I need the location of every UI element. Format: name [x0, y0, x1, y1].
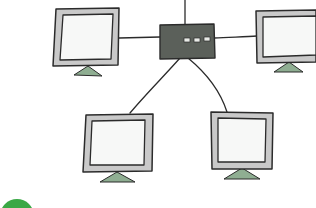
cable-hub-to-computer-top-right	[214, 36, 257, 38]
cable-hub-to-computer-bottom-left	[130, 58, 180, 113]
monitor-icon	[83, 114, 153, 182]
hub-led-3	[204, 37, 210, 41]
green-badge-icon	[0, 199, 34, 208]
network-hub-icon	[160, 24, 215, 59]
monitor-icon	[211, 112, 273, 179]
network-diagram	[0, 0, 316, 208]
hub-led-1	[184, 38, 190, 42]
monitor-icon	[53, 8, 119, 76]
cable-hub-to-computer-top-left	[119, 37, 160, 38]
monitor-icon	[256, 10, 316, 72]
hub-led-2	[194, 38, 200, 42]
cable-hub-to-computer-bottom-right	[188, 58, 227, 112]
